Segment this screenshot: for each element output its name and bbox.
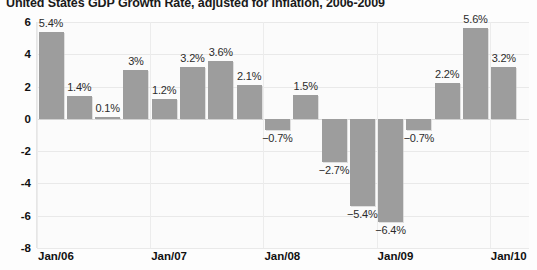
y-tick-label: -8 bbox=[21, 242, 31, 254]
bar bbox=[406, 119, 431, 130]
y-tick-label: 0 bbox=[25, 113, 31, 125]
y-tick-label: -4 bbox=[21, 177, 31, 189]
bar bbox=[237, 85, 262, 119]
bar bbox=[463, 28, 488, 118]
bar-value-label: −6.4% bbox=[366, 224, 415, 236]
gridline bbox=[37, 151, 529, 152]
plot-area: 6420-2-4-6-8 5.4%1.4%0.1%3%1.2%3.2%3.6%2… bbox=[36, 22, 529, 248]
bar-value-label: 1.4% bbox=[55, 81, 104, 93]
chart-title: United States GDP Growth Rate, adjusted … bbox=[6, 0, 526, 10]
bar-value-label: 3% bbox=[111, 55, 160, 67]
bar bbox=[350, 119, 375, 206]
bar-value-label: −0.7% bbox=[394, 132, 443, 144]
x-tick-label: Jan/10 bbox=[491, 250, 527, 262]
x-axis-tick-labels: Jan/06Jan/07Jan/08Jan/09Jan/10 bbox=[36, 250, 528, 268]
x-tick-label: Jan/09 bbox=[378, 250, 414, 262]
chart-screenshot: United States GDP Growth Rate, adjusted … bbox=[0, 0, 537, 270]
y-tick-label: -6 bbox=[21, 210, 31, 222]
x-tick-label: Jan/08 bbox=[264, 250, 300, 262]
y-tick-label: 4 bbox=[25, 48, 31, 60]
bar bbox=[95, 117, 120, 119]
gridline bbox=[37, 248, 529, 249]
bar bbox=[152, 99, 177, 118]
gridline bbox=[37, 183, 529, 184]
gridline bbox=[37, 216, 529, 217]
bar-value-label: 3.2% bbox=[479, 52, 528, 64]
y-tick-label: -2 bbox=[21, 145, 31, 157]
bar-value-label: 1.5% bbox=[281, 80, 330, 92]
y-tick-label: 2 bbox=[25, 81, 31, 93]
bar bbox=[322, 119, 347, 163]
bar bbox=[265, 119, 290, 130]
bar bbox=[491, 67, 516, 119]
bar-value-label: 5.6% bbox=[451, 13, 500, 25]
bar-value-label: 2.1% bbox=[225, 70, 274, 82]
x-tick-label: Jan/07 bbox=[151, 250, 187, 262]
bar bbox=[39, 32, 64, 119]
bar-value-label: 3.6% bbox=[196, 46, 245, 58]
bar bbox=[293, 95, 318, 119]
bar bbox=[435, 83, 460, 119]
bar-value-label: −0.7% bbox=[253, 132, 302, 144]
bar bbox=[180, 67, 205, 119]
bar-value-label: 5.4% bbox=[27, 17, 76, 29]
x-tick-label: Jan/06 bbox=[38, 250, 74, 262]
